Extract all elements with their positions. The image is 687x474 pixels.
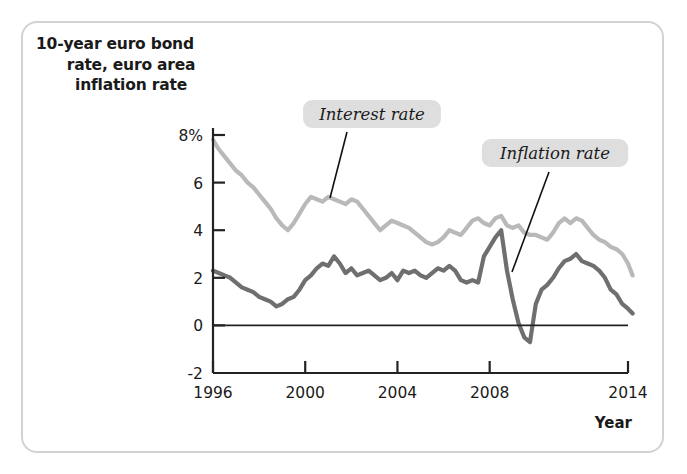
inflation-rate-annotation-label[interactable]: Inflation rate <box>499 144 610 163</box>
y-tick-label: 6 <box>193 175 203 193</box>
y-tick-label: 8% <box>178 127 203 145</box>
x-tick-label: 2004 <box>378 384 417 402</box>
chart-svg: -202468%19962000200420082014Year Interes… <box>0 0 687 474</box>
x-tick-label: 1996 <box>193 384 232 402</box>
y-tick-label: 4 <box>193 222 203 240</box>
y-tick-label: -2 <box>188 365 203 383</box>
x-tick-label: 2008 <box>470 384 509 402</box>
x-tick-label: 2000 <box>285 384 324 402</box>
x-axis-title: Year <box>594 414 633 432</box>
x-tick-label: 2014 <box>608 384 647 402</box>
series-layer <box>213 140 633 342</box>
interest-rate-annotation-leader-line <box>330 132 347 198</box>
inflation-rate-annotation-leader-line <box>512 172 549 272</box>
figure-root: 10-year euro bond rate, euro area inflat… <box>0 0 687 474</box>
axis-layer: -202468%19962000200420082014Year <box>178 127 647 432</box>
annotation-layer: Interest rateInflation rate <box>303 100 628 272</box>
interest-rate-annotation-label[interactable]: Interest rate <box>318 105 425 124</box>
y-tick-label: 2 <box>193 270 203 288</box>
y-tick-label: 0 <box>193 317 203 335</box>
